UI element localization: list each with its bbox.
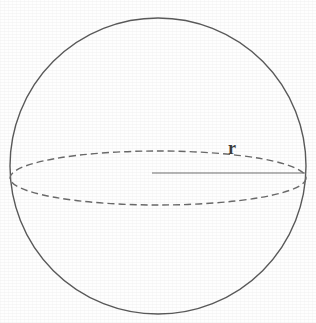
radius-label: r xyxy=(228,139,236,157)
diagram-canvas xyxy=(0,0,316,323)
sphere-diagram-figure: r xyxy=(0,0,316,323)
sphere-outline-circle xyxy=(10,18,306,314)
equator-ellipse xyxy=(10,151,306,205)
